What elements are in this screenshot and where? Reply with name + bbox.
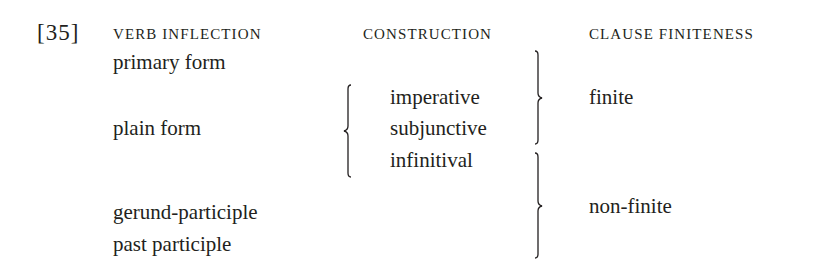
verb-form-primary: primary form: [113, 50, 226, 74]
header-construction: construction: [363, 22, 492, 46]
verb-form-past-participle: past participle: [113, 232, 231, 256]
construction-subjunctive: subjunctive: [390, 116, 487, 140]
verb-form-gerund-participle: gerund-participle: [113, 200, 258, 224]
left-brace-icon: [340, 84, 354, 178]
finiteness-non-finite: non-finite: [589, 194, 672, 218]
right-brace-nonfinite-icon: [533, 152, 547, 259]
header-verb-inflection: verb inflection: [113, 22, 262, 46]
finiteness-finite: finite: [589, 85, 633, 109]
construction-infinitival: infinitival: [390, 148, 473, 172]
construction-imperative: imperative: [390, 85, 480, 109]
right-brace-finite-icon: [533, 50, 547, 145]
verb-form-plain: plain form: [113, 116, 201, 140]
example-number: [35]: [37, 21, 79, 45]
header-clause-finiteness: clause finiteness: [589, 22, 754, 46]
